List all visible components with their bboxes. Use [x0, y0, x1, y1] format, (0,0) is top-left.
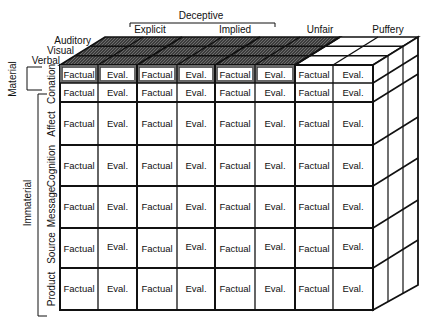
- cell-eval: Eval.: [264, 87, 285, 98]
- cell-factual: Factual: [298, 243, 329, 254]
- claim-cube-diagram: Factual Eval. Factual Eval. Factual Eval…: [0, 0, 433, 335]
- cell-factual: Factual: [141, 69, 172, 80]
- cell-eval: Eval.: [342, 283, 363, 294]
- cell-factual: Factual: [63, 283, 94, 294]
- conation-label: Conation: [46, 64, 57, 104]
- cell-factual: Factual: [141, 160, 172, 171]
- cell-eval: Eval.: [264, 69, 285, 80]
- cell-eval: Eval.: [107, 241, 128, 252]
- cognition-label: Cognition: [46, 145, 57, 187]
- cell-eval: Eval.: [185, 283, 206, 294]
- cell-factual: Factual: [298, 69, 329, 80]
- cell-eval: Eval.: [107, 160, 128, 171]
- cell-factual: Factual: [219, 118, 250, 129]
- cell-eval: Eval.: [342, 241, 363, 252]
- cell-factual: Factual: [63, 69, 94, 80]
- cell-factual: Factual: [219, 160, 250, 171]
- column-headers: Deceptive Explicit Implied Unfair Puffer…: [130, 10, 404, 35]
- cell-factual: Factual: [63, 201, 94, 212]
- product-label: Product: [46, 272, 57, 307]
- cell-factual: Factual: [298, 87, 329, 98]
- cell-factual: Factual: [63, 87, 94, 98]
- cell-eval: Eval.: [264, 241, 285, 252]
- cell-eval: Eval.: [342, 160, 363, 171]
- cube-top-face: [60, 37, 418, 65]
- cell-eval: Eval.: [185, 118, 206, 129]
- cell-factual: Factual: [63, 160, 94, 171]
- cell-eval: Eval.: [264, 201, 285, 212]
- cell-eval: Eval.: [107, 201, 128, 212]
- cell-eval: Eval.: [107, 118, 128, 129]
- material-label: Material: [7, 61, 18, 97]
- deceptive-label: Deceptive: [179, 10, 224, 21]
- cell-factual: Factual: [219, 243, 250, 254]
- cell-eval: Eval.: [342, 118, 363, 129]
- cell-eval: Eval.: [185, 87, 206, 98]
- cell-eval: Eval.: [264, 283, 285, 294]
- cell-factual: Factual: [63, 243, 94, 254]
- affect-label: Affect: [46, 111, 57, 137]
- cell-eval: Eval.: [264, 118, 285, 129]
- cell-eval: Eval.: [185, 201, 206, 212]
- cell-eval: Eval.: [342, 201, 363, 212]
- implied-label: Implied: [219, 24, 251, 35]
- unfair-label: Unfair: [307, 24, 334, 35]
- cell-factual: Factual: [298, 201, 329, 212]
- cell-factual: Factual: [141, 283, 172, 294]
- cell-eval: Eval.: [107, 87, 128, 98]
- cell-eval: Eval.: [185, 69, 206, 80]
- row-labels: Conation Affect Cognition Message Source…: [46, 64, 57, 306]
- immaterial-label: Immaterial: [22, 180, 33, 227]
- cell-factual: Factual: [141, 118, 172, 129]
- cell-factual: Factual: [219, 283, 250, 294]
- cell-eval: Eval.: [107, 283, 128, 294]
- cell-factual: Factual: [141, 201, 172, 212]
- cell-factual: Factual: [141, 87, 172, 98]
- cell-factual: Factual: [219, 201, 250, 212]
- cell-factual: Factual: [141, 243, 172, 254]
- message-label: Message: [46, 186, 57, 227]
- cell-eval: Eval.: [107, 69, 128, 80]
- cell-factual: Factual: [298, 160, 329, 171]
- puffery-label: Puffery: [372, 24, 404, 35]
- source-label: Source: [46, 232, 57, 264]
- cell-eval: Eval.: [264, 160, 285, 171]
- cell-eval: Eval.: [185, 160, 206, 171]
- cell-factual: Factual: [298, 118, 329, 129]
- row-group-brackets: Material Immaterial: [7, 61, 47, 316]
- cell-factual: Factual: [298, 283, 329, 294]
- cell-eval: Eval.: [342, 87, 363, 98]
- explicit-label: Explicit: [134, 24, 166, 35]
- cube-right-face: [373, 37, 418, 310]
- cell-factual: Factual: [63, 118, 94, 129]
- cell-eval: Eval.: [185, 241, 206, 252]
- cell-eval: Eval.: [342, 69, 363, 80]
- cube-front-face: [60, 65, 373, 310]
- cell-factual: Factual: [219, 69, 250, 80]
- cell-factual: Factual: [219, 87, 250, 98]
